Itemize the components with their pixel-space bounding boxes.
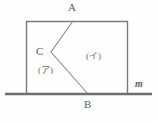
geometry-figure: A C B (ア) (イ) m <box>0 0 158 122</box>
figure-canvas <box>0 0 158 122</box>
line-label-m: m <box>135 79 143 89</box>
region-label-right: (イ) <box>86 52 101 61</box>
region-label-left: (ア) <box>38 66 53 75</box>
point-label-a: A <box>68 2 76 13</box>
point-label-b: B <box>84 99 91 110</box>
point-label-c: C <box>36 46 43 57</box>
divider-polyline-acb <box>51 21 88 94</box>
